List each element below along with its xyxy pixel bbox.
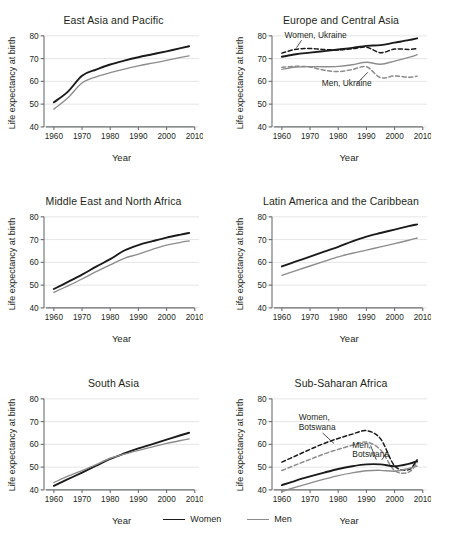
series-line-women [54, 432, 189, 485]
x-tick-label: 1990 [357, 494, 376, 503]
x-tick-label: 1970 [300, 494, 319, 503]
x-tick-label: 2010 [413, 313, 430, 322]
y-tick-label: 50 [29, 463, 39, 472]
x-tick-label: 2000 [157, 494, 176, 503]
series-line-women [54, 46, 189, 102]
x-tick-label: 1960 [272, 313, 291, 322]
y-tick-label: 40 [257, 485, 267, 494]
figure-legend: WomenMen [0, 515, 455, 524]
series-line-women [281, 225, 416, 267]
x-tick-label: 1990 [357, 313, 376, 322]
y-tick-label: 80 [257, 32, 267, 41]
x-tick-label: 1960 [272, 494, 291, 503]
x-tick-label: 1990 [129, 313, 148, 322]
series-line-men [54, 56, 189, 109]
y-tick-label: 50 [257, 100, 267, 109]
x-tick-label: 2000 [157, 132, 176, 141]
x-tick-label: 1960 [45, 494, 64, 503]
series-line-women [281, 38, 416, 56]
plot-area: 4050607080196019701980199020002010Women,… [242, 388, 431, 515]
x-tick-label: 2010 [186, 313, 203, 322]
x-tick-label: 2010 [186, 494, 203, 503]
y-tick-label: 40 [29, 304, 39, 313]
x-tick-label: 1990 [129, 132, 148, 141]
legend-line-swatch [163, 519, 185, 520]
gridlines [266, 398, 427, 489]
x-tick-label: 2010 [186, 132, 203, 141]
panel-east-asia-and-pacific: East Asia and PacificLife expectancy at … [0, 0, 227, 181]
series-line-men [281, 55, 416, 70]
x-tick-label: 1990 [357, 132, 376, 141]
plot-area: 4050607080196019701980199020002010 [14, 25, 203, 152]
legend-label: Men [274, 515, 292, 524]
y-tick-label: 50 [257, 281, 267, 290]
annotation-label: Women, Ukraine [284, 30, 347, 40]
x-tick-label: 2010 [413, 494, 430, 503]
annotation-label: Botswana [352, 449, 389, 459]
y-tick-label: 50 [29, 281, 39, 290]
gridlines [38, 398, 199, 489]
x-axis-label: Year [44, 152, 199, 163]
y-tick-label: 50 [29, 100, 39, 109]
gridlines [266, 217, 427, 308]
y-tick-label: 60 [257, 77, 267, 86]
series-line-women [54, 233, 189, 289]
y-tick-label: 60 [29, 440, 39, 449]
annotation-label: Men, Ukraine [321, 78, 371, 88]
y-tick-label: 60 [257, 259, 267, 268]
panel-latin-america-and-the-caribbean: Latin America and the CaribbeanLife expe… [228, 181, 455, 362]
plot-area: 4050607080196019701980199020002010 [14, 388, 203, 515]
x-tick-label: 1990 [129, 494, 148, 503]
series-line-women-botswana [281, 430, 416, 470]
x-tick-label: 1970 [73, 494, 92, 503]
x-tick-label: 1960 [272, 132, 291, 141]
y-tick-label: 40 [257, 304, 267, 313]
y-tick-label: 80 [257, 213, 267, 222]
figure-multi-panel-life-expectancy: East Asia and PacificLife expectancy at … [0, 0, 455, 544]
panel-middle-east-and-north-africa: Middle East and North AfricaLife expecta… [0, 181, 227, 362]
y-tick-label: 80 [257, 394, 267, 403]
legend-line-swatch [247, 519, 269, 520]
panel-europe-and-central-asia: Europe and Central AsiaLife expectancy a… [228, 0, 455, 181]
y-tick-label: 70 [29, 55, 39, 64]
x-tick-label: 2000 [385, 494, 404, 503]
legend-item-men[interactable]: Men [247, 515, 292, 524]
y-tick-label: 80 [29, 32, 39, 41]
y-tick-label: 70 [29, 236, 39, 245]
legend-label: Women [190, 515, 221, 524]
x-axis-label: Year [44, 333, 199, 344]
plot-area: 4050607080196019701980199020002010 [242, 206, 431, 333]
x-axis-label: Year [272, 152, 427, 163]
x-tick-label: 1980 [329, 494, 348, 503]
x-axis-label: Year [272, 333, 427, 344]
series-line-men-ukraine [281, 66, 416, 78]
x-tick-label: 1970 [73, 313, 92, 322]
x-tick-label: 1980 [101, 132, 120, 141]
leader-line [296, 40, 301, 48]
x-tick-label: 1970 [73, 132, 92, 141]
plot-area: 4050607080196019701980199020002010Women,… [242, 25, 431, 152]
x-tick-label: 2000 [385, 313, 404, 322]
series-line-men [281, 238, 416, 275]
y-tick-label: 40 [29, 123, 39, 132]
y-tick-label: 40 [257, 123, 267, 132]
x-tick-label: 1970 [300, 313, 319, 322]
x-tick-label: 1960 [45, 313, 64, 322]
y-tick-label: 80 [29, 394, 39, 403]
annotation-label: Women, [298, 412, 329, 422]
annotation-label: Botswana [298, 421, 335, 431]
x-tick-label: 2000 [157, 313, 176, 322]
x-tick-label: 1980 [101, 313, 120, 322]
y-tick-label: 70 [257, 55, 267, 64]
y-tick-label: 40 [29, 485, 39, 494]
x-tick-label: 1980 [329, 132, 348, 141]
x-tick-label: 1960 [45, 132, 64, 141]
y-tick-label: 70 [29, 417, 39, 426]
annotation-label: Men, [352, 439, 371, 449]
x-tick-label: 1980 [329, 313, 348, 322]
y-tick-label: 50 [257, 463, 267, 472]
x-tick-label: 2000 [385, 132, 404, 141]
legend-item-women[interactable]: Women [163, 515, 221, 524]
plot-area: 4050607080196019701980199020002010 [14, 206, 203, 333]
y-tick-label: 80 [29, 213, 39, 222]
